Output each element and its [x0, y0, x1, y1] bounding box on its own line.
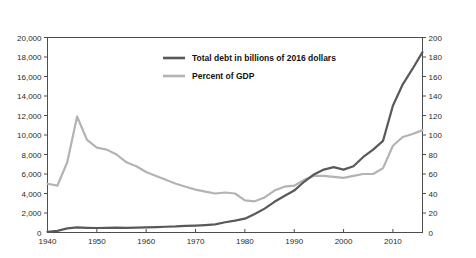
y-axis-right-tick-label: 120	[429, 112, 443, 121]
x-axis-tick-label: 1990	[285, 237, 303, 246]
debt-chart: Billions of 2016 U.S. dollars Percent of…	[0, 0, 476, 258]
y-axis-left-tick-label: 20,000	[17, 34, 42, 43]
y-axis-left-tick-label: 10,000	[17, 131, 42, 140]
chart-svg: 02,0004,0006,0008,00010,00012,00014,0001…	[0, 0, 476, 258]
x-axis-tick-label: 1950	[88, 237, 106, 246]
y-axis-left-tick-label: 6,000	[21, 170, 42, 179]
y-axis-right-tick-label: 100	[429, 131, 443, 140]
y-axis-right-tick-label: 40	[429, 190, 438, 199]
legend-label-1: Percent of GDP	[192, 71, 255, 81]
x-axis-tick-label: 1960	[137, 237, 155, 246]
x-axis-tick-label: 1940	[39, 237, 57, 246]
y-axis-right-tick-label: 60	[429, 170, 438, 179]
y-axis-right-tick-label: 160	[429, 73, 443, 82]
y-axis-right-tick-label: 180	[429, 53, 443, 62]
y-axis-right-tick-label: 200	[429, 34, 443, 43]
x-axis-tick-label: 1980	[236, 237, 254, 246]
y-axis-left-tick-label: 8,000	[21, 151, 42, 160]
x-axis-tick-label: 2000	[335, 237, 353, 246]
y-axis-left-tick-label: 18,000	[17, 53, 42, 62]
y-axis-left-tick-label: 4,000	[21, 190, 42, 199]
y-axis-left-tick-label: 16,000	[17, 73, 42, 82]
x-axis-tick-label: 1970	[187, 237, 205, 246]
legend-label-0: Total debt in billions of 2016 dollars	[192, 53, 336, 63]
y-axis-right-tick-label: 20	[429, 209, 438, 218]
y-axis-right-tick-label: 0	[429, 229, 434, 238]
y-axis-right-tick-label: 80	[429, 151, 438, 160]
y-axis-left-tick-label: 14,000	[17, 92, 42, 101]
y-axis-left-tick-label: 2,000	[21, 209, 42, 218]
y-axis-right-tick-label: 140	[429, 92, 443, 101]
y-axis-left-tick-label: 12,000	[17, 112, 42, 121]
x-axis-tick-label: 2010	[384, 237, 402, 246]
